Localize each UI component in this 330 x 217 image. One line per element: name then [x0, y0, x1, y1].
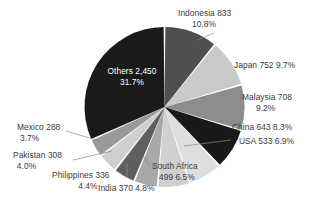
slice-label-japan-line1: Japan 752 9.7% — [234, 60, 295, 70]
slice-label-mexico: Mexico 288 3.7% — [17, 122, 60, 143]
slice-label-south-africa: South Africa 499 6.5% — [152, 161, 198, 182]
slice-label-south-africa-line2: 499 6.5% — [152, 172, 198, 183]
slice-label-malaysia-line1: Malaysia 708 — [242, 92, 292, 102]
slice-label-others-line2: 31.7% — [90, 77, 174, 88]
slice-label-usa-line1: USA 533 6.9% — [239, 136, 294, 146]
slice-label-pakistan-line2: 4.0% — [13, 161, 62, 172]
slice-label-china: China 643 8.3% — [232, 122, 292, 133]
slice-label-malaysia-line2: 9.2% — [242, 103, 292, 114]
slice-label-philippines-line2: 4.4% — [52, 181, 110, 192]
slice-label-indonesia-line1: Indonesia 833 — [178, 8, 231, 18]
slice-label-china-line1: China 643 8.3% — [232, 122, 292, 132]
slice-label-mexico-line2: 3.7% — [17, 133, 60, 144]
slice-label-indonesia-line2: 10.8% — [178, 19, 231, 30]
slice-label-philippines: Philippines 336 4.4% — [52, 170, 110, 191]
slice-label-mexico-line1: Mexico 288 — [17, 122, 60, 132]
slice-label-pakistan: Pakistan 308 4.0% — [13, 150, 62, 171]
slice-label-others: Others 2,450 31.7% — [90, 66, 174, 87]
slice-label-philippines-line1: Philippines 336 — [52, 170, 110, 180]
slice-label-others-line1: Others 2,450 — [107, 66, 156, 76]
slice-label-pakistan-line1: Pakistan 308 — [13, 150, 62, 160]
slice-label-indonesia: Indonesia 833 10.8% — [178, 8, 231, 29]
slice-label-south-africa-line1: South Africa — [152, 161, 198, 171]
slice-label-usa: USA 533 6.9% — [239, 136, 294, 147]
pie-chart-figure: Indonesia 833 10.8% Japan 752 9.7% Malay… — [0, 0, 330, 217]
slice-label-malaysia: Malaysia 708 9.2% — [242, 92, 292, 113]
slice-label-japan: Japan 752 9.7% — [234, 60, 295, 71]
